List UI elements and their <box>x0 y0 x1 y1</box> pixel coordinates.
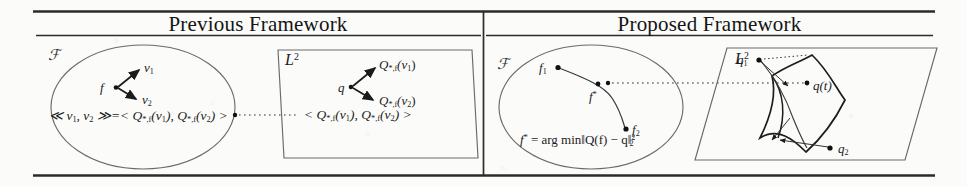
correspondence-connector-previous <box>233 113 296 117</box>
image-vectors-previous <box>353 68 375 100</box>
q1-subscript: 1 <box>744 59 748 68</box>
eq-open: ≪ v <box>49 108 72 123</box>
eqr-open: < Q <box>304 107 326 122</box>
eqr-q1-sub: *,f <box>326 114 335 123</box>
point-label-f-previous: f <box>100 80 104 96</box>
qv2-close: ) <box>411 93 415 108</box>
qv1-subscript: *,f <box>388 64 397 73</box>
eq-q1-close: ), Q <box>166 108 187 123</box>
panel-title-proposed: Proposed Framework <box>484 12 935 37</box>
tangent-vector-label-v1-previous: v1 <box>144 60 154 76</box>
tangent-vectors-previous <box>118 70 139 99</box>
point-label-q-previous: q <box>338 80 345 96</box>
eqr-q1-arg: (v <box>335 107 346 122</box>
point-label-f1-proposed: f1 <box>539 60 547 76</box>
eq-mid: , v <box>77 108 90 123</box>
objective-equation-proposed: f* = arg min‖Q(f) − q‖22 <box>520 132 633 148</box>
point-label-fstar-proposed: f* <box>589 89 597 105</box>
point-f2-proposed <box>623 126 628 131</box>
q2-subscript: 2 <box>845 148 849 157</box>
eq-q2-arg: (v <box>196 108 207 123</box>
f1-subscript: 1 <box>543 67 547 76</box>
v1-subscript: 1 <box>150 67 154 76</box>
fstar-superscript: * <box>593 90 597 99</box>
l2-exponent: 2 <box>294 51 299 62</box>
l2-space-label-previous: L2 <box>285 51 299 69</box>
eq-q1-arg: (v <box>151 108 162 123</box>
objective-body: = arg min‖Q(f) − q‖ <box>528 132 632 147</box>
eqr-q2-close: ) > <box>395 107 412 122</box>
qv2-arg: (v <box>397 93 407 108</box>
inner-product-equation-previous: ≪ v1, v2 ≫=< Q*,f(v1), Q*,f(v2) > <box>49 107 228 124</box>
image-vector-label-qv1-previous: Q*,f(v1) <box>379 57 416 73</box>
point-q1-proposed <box>756 57 761 62</box>
point-fstar-proposed <box>596 82 601 87</box>
eqr-q1-close: ), Q <box>350 107 371 122</box>
function-space-ellipse-proposed <box>499 45 683 169</box>
point-f-previous <box>114 85 119 90</box>
eqr-q2-arg: (v <box>380 107 391 122</box>
inner-product-equation-image-previous: < Q*,f(v1), Q*,f(v2) > <box>304 107 412 123</box>
qv1-arg: (v <box>397 57 407 72</box>
point-qt-proposed <box>805 81 810 86</box>
point-q-previous <box>349 85 354 90</box>
eq-close-q1: ≫=< Q <box>94 108 143 123</box>
l2-parallelogram-previous <box>278 50 478 158</box>
objective-subscript: 2 <box>629 139 633 148</box>
function-space-label-proposed: ℱ <box>497 55 509 73</box>
image-curve-label-qt-proposed: q(t) <box>813 78 832 94</box>
tangent-vector-label-v2-previous: v2 <box>142 92 152 108</box>
function-space-label-previous: ℱ <box>48 46 60 64</box>
eq-q2-close: ) > <box>211 108 228 123</box>
qv2-Q: Q <box>379 93 388 108</box>
framework-comparison-figure: Previous Framework Proposed Framework ℱ … <box>0 0 967 187</box>
qv1-close: ) <box>411 57 415 72</box>
f2-subscript: 2 <box>636 129 640 138</box>
point-label-q1-proposed: q1 <box>737 52 748 68</box>
panel-title-previous: Previous Framework <box>33 12 483 37</box>
l2-symbol: L <box>285 51 294 68</box>
point-f1-proposed <box>555 65 560 70</box>
eqr-q2-sub: *,f <box>371 114 380 123</box>
qv1-Q: Q <box>379 57 388 72</box>
point-q2-proposed <box>827 145 832 150</box>
point-label-q2-proposed: q2 <box>838 141 849 157</box>
eq-q1-sub: *,f <box>142 115 151 124</box>
eq-q2-sub: *,f <box>187 115 196 124</box>
manifold-patch-proposed <box>760 55 845 152</box>
